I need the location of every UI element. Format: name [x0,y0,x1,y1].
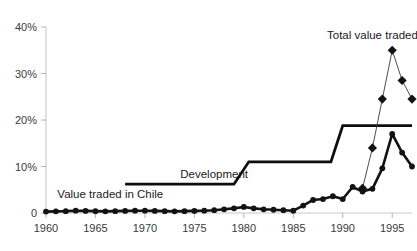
data-point-marker-circle [211,207,217,213]
x-tick-group [46,213,392,218]
chart-annotation-label: Total value traded [327,29,417,41]
data-point-marker-diamond [398,76,407,85]
data-point-marker-circle [132,208,138,214]
data-point-marker-diamond [368,143,377,152]
data-point-marker-circle [231,205,237,211]
data-point-marker-circle [182,208,188,214]
data-point-marker-circle [409,164,415,170]
data-point-marker-circle [53,208,59,214]
y-tick-group [41,27,46,213]
data-point-marker-circle [112,208,118,214]
chart-annotation-label: Value traded in Chile [57,188,163,200]
data-point-marker-circle [360,189,366,195]
data-point-marker-circle [162,208,168,214]
data-point-marker-circle [281,207,287,213]
y-tick-label-group: 010%20%30%40% [15,21,37,219]
data-point-marker-circle [122,208,128,214]
data-point-marker-diamond [378,94,387,103]
data-point-marker-circle [271,207,277,213]
data-point-marker-circle [73,208,79,214]
data-point-marker-circle [83,208,89,214]
data-point-marker-circle [102,208,108,214]
data-point-marker-circle [330,193,336,199]
x-tick-label: 1985 [281,222,305,234]
data-point-marker-circle [172,208,178,214]
data-point-marker-circle [310,197,316,203]
y-tick-label: 40% [15,21,37,33]
x-axis: 19601965197019751980198519901995 [34,213,412,234]
y-axis: 010%20%30%40% [15,21,46,219]
data-point-marker-circle [379,165,385,171]
data-point-marker-circle [261,206,267,212]
data-point-marker-circle [191,208,197,214]
series-total-value-traded [358,46,417,193]
data-point-marker-circle [221,206,227,212]
data-point-marker-circle [142,208,148,214]
data-point-marker-diamond [388,46,397,55]
chart-annotation-label: Development [180,168,249,180]
data-point-marker-circle [290,208,296,214]
data-point-marker-circle [43,209,49,215]
data-point-marker-circle [251,205,257,211]
data-point-marker-circle [350,184,356,190]
x-tick-label: 1970 [133,222,157,234]
data-point-marker-circle [152,208,158,214]
y-tick-label: 0 [31,207,37,219]
x-tick-label: 1990 [331,222,355,234]
x-tick-label: 1965 [83,222,107,234]
x-tick-label: 1975 [182,222,206,234]
data-point-marker-circle [389,131,395,137]
total-value-traded-line [363,50,412,188]
data-point-marker-circle [340,196,346,202]
data-point-marker-circle [241,204,247,210]
y-tick-label: 30% [15,68,37,80]
x-tick-label: 1980 [232,222,256,234]
data-point-marker-circle [399,150,405,156]
data-point-marker-circle [300,203,306,209]
x-tick-label-group: 19601965197019751980198519901995 [34,222,405,234]
series-development [125,126,412,185]
data-point-marker-circle [320,196,326,202]
chart-annotation-group: Total value tradedDevelopmentValue trade… [57,29,417,200]
chart-plot-area: 010%20%30%40% 19601965197019751980198519… [0,0,417,251]
y-tick-label: 10% [15,161,37,173]
chart-container: 010%20%30%40% 19601965197019751980198519… [0,0,417,251]
development-step-line [125,126,412,185]
data-point-marker-circle [201,208,207,214]
data-point-marker-circle [370,186,376,192]
x-tick-label: 1995 [380,222,404,234]
data-point-marker-circle [93,208,99,214]
data-point-marker-diamond [407,94,416,103]
y-tick-label: 20% [15,114,37,126]
x-tick-label: 1960 [34,222,58,234]
data-point-marker-circle [63,208,69,214]
